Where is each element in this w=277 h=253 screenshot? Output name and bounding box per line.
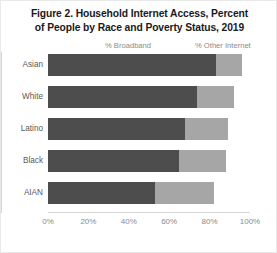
figure-container: Figure 2. Household Internet Access, Per…: [0, 0, 277, 253]
chart-legend: % Broadband % Other Internet: [1, 40, 277, 52]
x-axis-tick-label: 80%: [193, 216, 227, 228]
chart-title-line-2: of People by Race and Poverty Status, 20…: [9, 21, 270, 35]
chart-title-line-1: Figure 2. Household Internet Access, Per…: [9, 7, 270, 21]
legend-item-other-internet: % Other Internet: [195, 40, 251, 52]
y-axis-tick-label: Latino: [5, 124, 43, 134]
y-axis-tick-label: Asian: [5, 60, 43, 70]
x-axis-line: [48, 212, 250, 213]
x-axis-tick-label: 40%: [112, 216, 146, 228]
x-axis-tick-label: 0%: [31, 216, 65, 228]
y-axis-tick-labels: Asian White Latino Black AIAN: [1, 52, 277, 212]
x-axis-tick-labels: 0% 20% 40% 60% 80% 100%: [1, 216, 277, 230]
chart-title: Figure 2. Household Internet Access, Per…: [9, 7, 270, 35]
legend-item-broadband: % Broadband: [105, 40, 151, 52]
y-axis-tick-label: Black: [5, 156, 43, 166]
y-axis-tick-label: White: [5, 92, 43, 102]
x-axis-tick-label: 60%: [152, 216, 186, 228]
y-axis-tick-label: AIAN: [5, 188, 43, 198]
x-axis-tick-label: 100%: [233, 216, 267, 228]
x-axis-tick-label: 20%: [71, 216, 105, 228]
